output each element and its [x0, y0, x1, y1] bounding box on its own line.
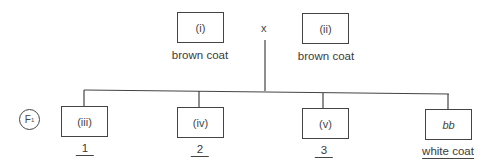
- generation-f1-badge: F1: [19, 109, 40, 130]
- offspring-id: (iv): [193, 117, 208, 129]
- answer-blank: 2: [191, 143, 209, 157]
- offspring-answer-3: 3: [315, 144, 333, 156]
- cross-symbol: x: [261, 22, 267, 34]
- offspring-box-1: (iii): [61, 106, 108, 137]
- offspring-answer-2: 2: [191, 143, 209, 155]
- offspring-box-2: (iv): [177, 107, 224, 138]
- parent-phenotype-2: brown coat: [298, 50, 354, 62]
- parent-box-1: (i): [177, 12, 224, 43]
- genetic-cross-diagram: (i) brown coat x (ii) brown coat F1 (iii…: [0, 0, 503, 167]
- offspring-answer-4: white coat: [422, 145, 474, 157]
- parent-id: (i): [196, 22, 206, 34]
- offspring-genotype: bb: [442, 119, 454, 131]
- parent-id: (ii): [319, 23, 331, 35]
- offspring-horizontal-line: [84, 90, 449, 94]
- answer-blank: 3: [315, 144, 333, 158]
- generation-subscript: 1: [31, 117, 34, 123]
- offspring-answer-1: 1: [76, 142, 94, 154]
- answer-blank: 1: [76, 142, 94, 156]
- offspring-box-4: bb: [425, 109, 472, 140]
- answer-phenotype: white coat: [422, 145, 474, 159]
- offspring-box-3: (v): [302, 108, 349, 139]
- offspring-id: (iii): [77, 116, 92, 128]
- parent-phenotype-1: brown coat: [172, 49, 228, 61]
- offspring-id: (v): [319, 118, 332, 130]
- parent-box-2: (ii): [302, 13, 349, 44]
